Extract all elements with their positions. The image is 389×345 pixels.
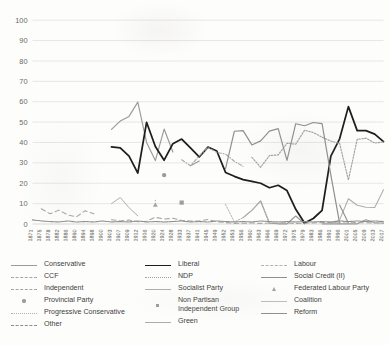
x-axis-tick-label: 1898 [89,229,95,241]
x-axis-tick-label: 1963 [255,229,261,241]
legend-item-liberal[interactable]: Liberal [145,260,261,270]
x-axis-tick-label: 1924 [159,229,165,241]
legend-item-other[interactable]: Other [11,320,145,330]
legend-swatch-icon [145,296,171,315]
legend-swatch-icon [261,296,287,306]
series-federated-labour-party [153,202,158,206]
legend-item-green[interactable]: Green [145,317,261,327]
legend-item-label: Independent [44,284,83,293]
legend-swatch-icon [11,272,37,282]
legend-swatch-icon [261,308,287,318]
x-axis-tick-label: 1952 [220,229,226,241]
legend-item-label: Conservative [44,260,85,269]
series-non-partisan-independent-group [180,201,184,205]
legend-item-reform[interactable]: Reform [261,308,385,318]
x-axis-tick-label: 1878 [45,229,51,241]
x-axis-tick-label: 1956 [238,229,244,241]
legend-swatch-icon [261,272,287,282]
chart-legend: ConservativeCCFIndependentProvincial Par… [11,259,383,343]
x-axis-tick-label: 1894 [80,229,86,241]
legend-item-progressive-conservative[interactable]: Progressive Conservative [11,308,145,318]
series-other [33,220,384,222]
x-axis-tick-label: 1871 [27,229,33,241]
x-axis-tick-label: 1986 [317,229,323,241]
legend-swatch-icon [145,317,171,327]
x-axis-tick-label: 1975 [290,229,296,241]
legend-swatch-icon [145,284,171,294]
legend-item-non-partisan-independent-group[interactable]: Non Partisan Independent Group [145,296,261,315]
legend-swatch-icon [11,308,37,318]
x-axis-tick-label: 1941 [194,229,200,241]
x-axis-tick-label: 2001 [343,229,349,241]
legend-item-label: Provincial Party [44,296,93,305]
x-axis-tick-label: 1966 [264,229,270,241]
series-provincial-party [162,173,166,177]
legend-item-ccf[interactable]: CCF [11,272,145,282]
y-axis-tick-label: 30 [19,158,27,167]
y-axis-tick-label: 80 [19,57,27,66]
legend-item-independent[interactable]: Independent [11,284,145,294]
legend-item-provincial-party[interactable]: Provincial Party [11,296,145,306]
chart-plot-area: 0102030405060708090100187118751878188218… [0,0,389,260]
legend-item-socialist-party[interactable]: Socialist Party [145,284,261,294]
x-axis-tick-label: 1960 [246,229,252,241]
legend-item-label: Other [44,320,62,329]
legend-column-3: LabourSocial Credit (II)Federated Labour… [261,259,385,343]
x-axis-tick-label: 2009 [361,229,367,241]
x-axis-tick-label: 1900 [97,229,103,241]
x-axis-tick-label: 1953 [229,229,235,241]
legend-item-social-credit-ii[interactable]: Social Credit (II) [261,272,385,282]
y-axis-tick-label: 20 [19,179,27,188]
legend-item-label: Green [178,317,198,326]
x-axis-tick-label: 1882 [53,229,59,241]
series-liberal [111,107,383,223]
x-axis-tick-label: 1979 [299,229,305,241]
x-axis-tick-label: 1933 [176,229,182,241]
legend-item-label: Federated Labour Party [294,284,369,293]
legend-item-label: Progressive Conservative [44,308,125,317]
y-axis-tick-label: 40 [19,138,27,147]
legend-swatch-icon [11,296,37,306]
x-axis-tick-label: 2013 [369,229,375,241]
x-axis-tick-label: 1903 [106,229,112,241]
x-axis-tick-label: 2005 [352,229,358,241]
x-axis-tick-label: 1875 [36,229,42,241]
y-axis-tick-label: 100 [15,16,27,25]
legend-item-federated-labour-party[interactable]: Federated Labour Party [261,284,385,294]
x-axis-tick-label: 1945 [203,229,209,241]
legend-item-conservative[interactable]: Conservative [11,260,145,270]
x-axis-tick-label: 1928 [167,229,173,241]
legend-item-label: Social Credit (II) [294,272,345,281]
x-axis-tick-label: 1886 [62,229,68,241]
x-axis-tick-label: 1937 [185,229,191,241]
series-socialist-party [111,198,137,216]
legend-swatch-icon [11,320,37,330]
legend-swatch-icon [11,260,37,270]
x-axis-tick-label: 1983 [308,229,314,241]
series-reform [340,205,349,223]
legend-swatch-icon [11,284,37,294]
y-axis-tick-label: 50 [19,118,27,127]
legend-column-2: LiberalNDPSocialist PartyNon Partisan In… [145,259,261,343]
y-axis-tick-label: 90 [19,36,27,45]
legend-item-label: NDP [178,272,193,281]
legend-item-label: Liberal [178,260,199,269]
x-axis-tick-label: 1949 [211,229,217,241]
legend-swatch-icon [261,284,287,294]
y-axis-tick-label: 60 [19,97,27,106]
legend-item-coalition[interactable]: Coalition [261,296,385,306]
x-axis-tick-label: 1890 [71,229,77,241]
legend-item-labour[interactable]: Labour [261,260,385,270]
y-axis-tick-label: 70 [19,77,27,86]
series-ndp [252,130,384,180]
legend-swatch-icon [145,272,171,282]
x-axis-tick-label: 2017 [378,229,384,241]
x-axis-tick-label: 1912 [132,229,138,241]
y-axis-tick-label: 0 [23,220,27,229]
x-axis-tick-label: 1920 [150,229,156,241]
legend-item-label: Reform [294,308,317,317]
series-ccf [182,147,243,166]
legend-swatch-icon [145,260,171,270]
x-axis-tick-label: 1969 [273,229,279,241]
legend-item-ndp[interactable]: NDP [145,272,261,282]
